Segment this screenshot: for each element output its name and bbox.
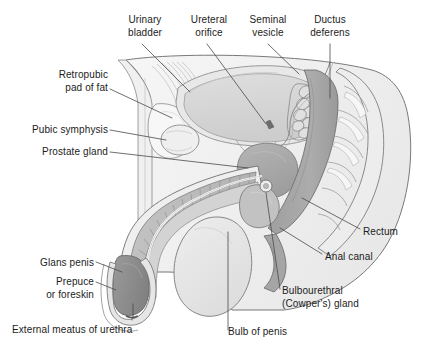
label-retropubic-pad-of-fat: Retropubic pad of fat [20,69,108,94]
label-bulb-of-penis: Bulb of penis [228,326,312,339]
label-prostate-gland: Prostate gland [18,146,108,159]
label-urinary-bladder: Urinary bladder [110,14,180,39]
label-rectum: Rectum [363,226,419,239]
label-ductus-deferens: Ductus deferens [296,14,364,39]
label-external-meatus-of-urethra: External meatus of urethra [12,324,168,337]
label-glans-penis: Glans penis [18,257,94,270]
label-bulbourethral-cowpers-gland: Bulbourethral (Cowper's) gland [282,285,392,310]
bulb-of-penis [239,185,279,228]
label-pubic-symphysis: Pubic symphysis [8,124,108,137]
bulbourethral-gland [260,180,272,192]
label-ureteral-orifice: Ureteral orifice [177,14,241,39]
label-anal-canal: Anal canal [325,251,395,264]
anatomy-figure: Urinary bladder Ureteral orifice Seminal… [0,0,425,352]
label-prepuce-or-foreskin: Prepuce or foreskin [18,276,94,301]
label-seminal-vesicle: Seminal vesicle [236,14,300,39]
external-meatus-of-urethra [126,316,138,318]
